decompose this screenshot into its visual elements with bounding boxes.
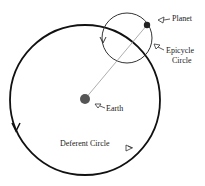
earth-dot [80, 94, 90, 104]
epicycle-diagram: Planet Epicycle Circle Earth Deferent Ci… [0, 0, 205, 186]
earth-planet-line [85, 25, 147, 99]
epicycle-label-line1: Epicycle [166, 46, 194, 55]
deferent-label: Deferent Circle [60, 139, 110, 148]
epicycle-pointer-icon [154, 44, 164, 50]
planet-pointer-icon [158, 17, 170, 23]
epicycle-arrow-icon [100, 37, 106, 43]
deferent-arrow-icon [12, 123, 20, 131]
earth-label: Earth [106, 104, 123, 113]
epicycle-label-line2: Circle [172, 56, 192, 65]
planet-dot [144, 22, 150, 28]
planet-label: Planet [172, 14, 192, 23]
diagram-canvas [0, 0, 205, 186]
earth-pointer-icon [95, 104, 105, 108]
deferent-pointer-icon [126, 145, 133, 151]
